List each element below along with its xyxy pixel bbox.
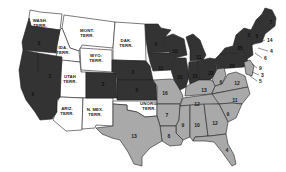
electoral-votes-ri: 4 (270, 49, 273, 54)
electoral-votes-ma: 14 (267, 38, 273, 43)
electoral-votes-ct: 6 (264, 56, 267, 61)
leader-lines (250, 40, 268, 81)
electoral-votes-wv: 6 (220, 80, 223, 85)
territory-label-mont: MONT. TERR. (80, 28, 94, 38)
electoral-votes-ms: 9 (182, 123, 185, 128)
electoral-votes-mi: 11 (196, 55, 201, 60)
electoral-votes-tn: 12 (194, 102, 200, 107)
territory-label-unorg: UNORG. TERR. (140, 101, 158, 111)
electoral-votes-ny: 35 (237, 46, 243, 51)
territory-label-nmex: N. MEX. TERR. (87, 107, 104, 117)
territory-label-ida: IDA. TERR. (56, 45, 69, 55)
electoral-votes-nc: 11 (232, 98, 237, 103)
electoral-votes-ar: 7 (166, 113, 169, 118)
electoral-votes-pa: 29 (229, 64, 235, 69)
electoral-votes-mo: 16 (162, 91, 168, 96)
electoral-votes-ky: 13 (201, 88, 207, 93)
electoral-votes-or: 3 (38, 41, 41, 46)
electoral-votes-al: 10 (194, 123, 200, 128)
electoral-votes-ne: 3 (132, 70, 135, 75)
electoral-votes-ks: 5 (136, 88, 139, 93)
electoral-votes-la: 8 (168, 134, 171, 139)
electoral-votes-nj: 9 (259, 66, 262, 71)
territory-label-dak: DAK. TERR. (119, 38, 132, 48)
territory-label-wyo: WYO. TERR. (89, 53, 102, 63)
us-electoral-map: WASH. TERR.MONT. TERR.DAK. TERR.IDA. TER… (0, 0, 286, 172)
electoral-votes-nh: 5 (256, 34, 259, 39)
state-md-de-nj (244, 60, 254, 76)
electoral-votes-ga: 12 (212, 121, 218, 126)
territory-label-ariz: ARIZ. TERR. (60, 106, 73, 116)
electoral-votes-co: 3 (102, 82, 105, 87)
electoral-votes-va: 12 (234, 81, 240, 86)
electoral-votes-vt: 5 (248, 33, 251, 38)
electoral-votes-tx: 13 (131, 134, 137, 139)
territory-label-wash: WASH. TERR. (33, 18, 48, 28)
electoral-votes-mn: 5 (155, 42, 158, 47)
electoral-votes-wi: 10 (172, 49, 178, 54)
electoral-votes-ca: 6 (32, 92, 35, 97)
territory-label-utah: UTAH TERR. (63, 74, 76, 84)
electoral-votes-sc: 9 (227, 112, 230, 117)
electoral-votes-me: 7 (270, 20, 273, 25)
electoral-votes-nv: 3 (49, 74, 52, 79)
electoral-votes-oh: 22 (208, 71, 214, 76)
electoral-votes-fl: 4 (226, 148, 229, 153)
state-fl (193, 134, 236, 166)
electoral-votes-md: 5 (259, 79, 262, 84)
electoral-votes-il: 21 (177, 75, 183, 80)
electoral-votes-ia: 11 (158, 66, 163, 71)
electoral-votes-in: 15 (192, 74, 198, 79)
